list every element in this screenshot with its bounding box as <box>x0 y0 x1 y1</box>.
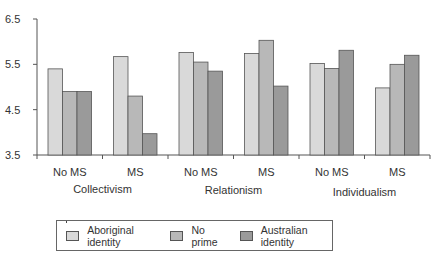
x-group-label: Relationism <box>205 184 262 196</box>
x-group-label: Collectivism <box>73 183 132 195</box>
legend-swatch <box>66 231 79 241</box>
bar <box>194 62 209 155</box>
y-tick-label: 4.5 <box>5 104 20 116</box>
bar <box>208 71 223 155</box>
chart-axes <box>33 19 430 159</box>
bar <box>48 69 63 155</box>
bar <box>310 63 325 155</box>
bar <box>325 68 340 155</box>
legend-item-aboriginal-identity: Aboriginal identity <box>66 224 158 248</box>
x-category-label: No MS <box>184 166 218 178</box>
chart-bars <box>48 40 419 155</box>
legend-swatch <box>240 231 253 241</box>
legend-label: Australian identity <box>261 224 332 248</box>
legend-dot-mark <box>66 221 67 223</box>
bar <box>63 92 78 155</box>
legend-label: No prime <box>191 224 227 248</box>
bar <box>128 96 143 155</box>
bar <box>259 40 274 155</box>
x-category-label: No MS <box>315 166 349 178</box>
legend-label: Aboriginal identity <box>87 224 158 248</box>
chart-legend: Aboriginal identity No prime Australian … <box>56 220 333 251</box>
x-group-label: Individualism <box>333 186 397 198</box>
bar <box>179 53 194 155</box>
bar <box>114 57 129 155</box>
x-category-label: No MS <box>53 166 87 178</box>
y-tick-label: 5.5 <box>5 58 20 70</box>
x-category-label: MS <box>258 166 275 178</box>
legend-item-no-prime: No prime <box>170 224 227 248</box>
bar <box>376 88 391 155</box>
bar <box>405 55 420 155</box>
legend-swatch <box>170 231 183 241</box>
bar <box>339 50 354 155</box>
bar <box>274 86 289 155</box>
y-tick-label: 3.5 <box>5 149 20 161</box>
bar <box>390 64 405 155</box>
x-category-label: MS <box>127 166 144 178</box>
y-tick-label: 6.5 <box>5 13 20 25</box>
bar <box>77 92 92 155</box>
legend-item-australian-identity: Australian identity <box>240 224 332 248</box>
bar <box>245 53 260 155</box>
x-category-label: MS <box>389 166 406 178</box>
bar <box>143 134 158 155</box>
